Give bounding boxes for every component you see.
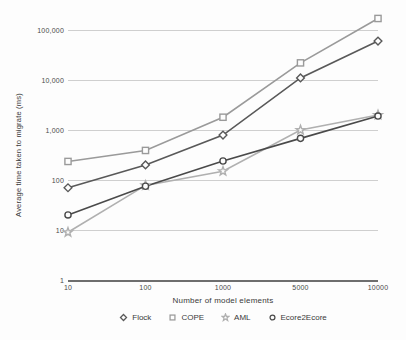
y-axis-title: Average time taken to migrate (ms) — [14, 93, 23, 217]
data-point-square — [375, 15, 381, 21]
legend-marker-star-icon — [221, 313, 230, 322]
data-point-star — [222, 314, 229, 321]
legend-label: Flock — [132, 313, 151, 322]
data-point-circle — [142, 183, 148, 189]
data-point-square — [170, 315, 175, 320]
data-point-square — [142, 147, 148, 153]
legend-label: AML — [234, 313, 250, 322]
data-point-circle — [297, 135, 303, 141]
data-point-diamond — [142, 161, 150, 169]
data-point-circle — [65, 212, 71, 218]
data-point-circle — [220, 158, 226, 164]
legend-marker-circle-icon — [268, 313, 277, 322]
data-point-square — [297, 60, 303, 66]
data-point-square — [65, 158, 71, 164]
x-axis-title: Number of model elements — [68, 296, 378, 305]
legend-label: COPE — [181, 313, 204, 322]
data-point-star — [64, 228, 73, 236]
chart-legend: FlockCOPEAMLEcore2Ecore — [68, 313, 378, 322]
chart-figure: 1101001,00010,000100,000 101001000500010… — [0, 0, 406, 340]
data-point-diamond — [64, 184, 72, 192]
legend-item-aml[interactable]: AML — [221, 313, 250, 322]
data-point-diamond — [121, 314, 127, 320]
series-line-cope — [68, 18, 378, 161]
data-point-circle — [375, 113, 381, 119]
series-plot — [0, 0, 406, 340]
legend-marker-diamond-icon — [119, 313, 128, 322]
legend-item-flock[interactable]: Flock — [119, 313, 151, 322]
data-point-circle — [270, 315, 275, 320]
legend-item-ecore2ecore[interactable]: Ecore2Ecore — [268, 313, 327, 322]
data-point-star — [219, 167, 228, 175]
legend-item-cope[interactable]: COPE — [168, 313, 204, 322]
legend-marker-square-icon — [168, 313, 177, 322]
data-point-star — [296, 125, 305, 133]
legend-label: Ecore2Ecore — [281, 313, 327, 322]
data-point-square — [220, 114, 226, 120]
data-point-diamond — [374, 37, 382, 45]
